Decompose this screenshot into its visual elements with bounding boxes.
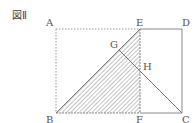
label-h: H <box>143 61 152 72</box>
figure-title: 図Ⅱ <box>12 10 27 21</box>
label-f: F <box>136 114 143 123</box>
label-d: D <box>182 17 190 28</box>
label-a: A <box>45 17 54 28</box>
label-b: B <box>46 114 53 123</box>
label-c: C <box>182 114 190 123</box>
geometry-figure: 図Ⅱ A E D B F C G H <box>0 0 196 123</box>
label-e: E <box>136 17 143 28</box>
label-g: G <box>110 39 118 50</box>
